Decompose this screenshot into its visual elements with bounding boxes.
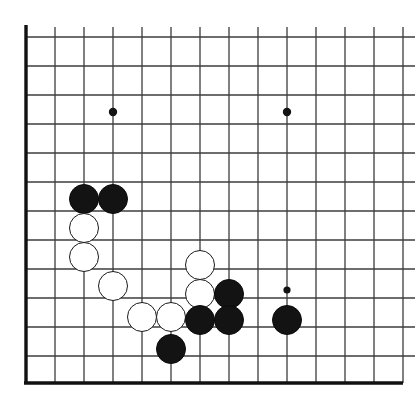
black-stone[interactable] xyxy=(69,184,99,214)
stone-layer[interactable] xyxy=(0,0,415,409)
black-stone[interactable] xyxy=(98,184,128,214)
black-stone[interactable] xyxy=(185,305,215,335)
black-stone[interactable] xyxy=(214,305,244,335)
white-stone[interactable] xyxy=(98,271,128,301)
white-stone[interactable] xyxy=(127,302,157,332)
black-stone[interactable] xyxy=(156,334,186,364)
white-stone[interactable] xyxy=(156,302,186,332)
white-stone[interactable] xyxy=(69,242,99,272)
go-board-diagram xyxy=(0,0,415,409)
black-stone[interactable] xyxy=(272,305,302,335)
white-stone[interactable] xyxy=(185,250,215,280)
white-stone[interactable] xyxy=(69,213,99,243)
